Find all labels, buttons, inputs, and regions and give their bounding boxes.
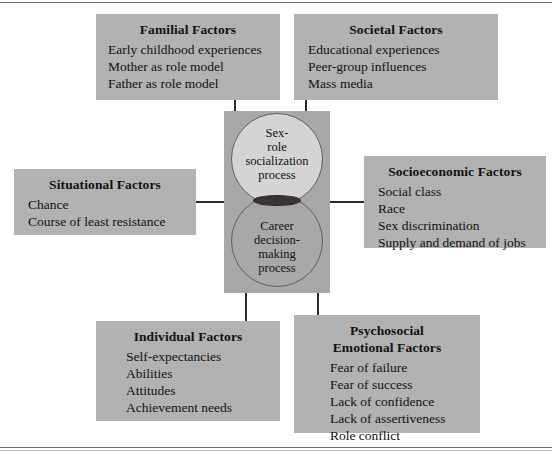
factor-box-socioeconomic[interactable]: Socioeconomic Factors Social class Race … bbox=[364, 156, 546, 248]
list-item: Self-expectancies bbox=[96, 348, 280, 365]
title-line: Individual Factors bbox=[96, 328, 280, 345]
circle-label-line: decision- bbox=[254, 233, 300, 247]
list-item: Chance bbox=[14, 196, 196, 213]
figure-canvas: Familial Factors Early childhood experie… bbox=[0, 0, 552, 459]
page-rule-bottom bbox=[0, 447, 552, 448]
factor-box-socioeconomic-title: Socioeconomic Factors bbox=[364, 163, 546, 180]
list-item: Educational experiences bbox=[294, 41, 498, 58]
factor-box-familial-title: Familial Factors bbox=[96, 21, 280, 38]
circle-career-decision-making-label: Career decision- making process bbox=[254, 219, 300, 276]
connector-center-to-individual bbox=[245, 292, 247, 322]
circle-career-decision-making[interactable]: Career decision- making process bbox=[231, 195, 323, 287]
title-line: Emotional Factors bbox=[294, 339, 480, 356]
factor-box-familial[interactable]: Familial Factors Early childhood experie… bbox=[96, 14, 280, 100]
list-item: Race bbox=[364, 200, 546, 217]
circle-label-line: Sex- bbox=[245, 126, 308, 140]
circle-label-line: socialization bbox=[245, 154, 308, 168]
circle-sex-role-socialization-label: Sex- role socialization process bbox=[245, 126, 308, 183]
list-item: Fear of failure bbox=[294, 359, 480, 376]
factor-box-situational[interactable]: Situational Factors Chance Course of lea… bbox=[14, 169, 196, 235]
circle-label-line: process bbox=[254, 261, 300, 275]
factor-box-socioeconomic-list: Social class Race Sex discrimination Sup… bbox=[364, 183, 546, 251]
list-item: Abilities bbox=[96, 365, 280, 382]
title-line: Psychosocial bbox=[294, 322, 480, 339]
factor-box-psychosocial-title: Psychosocial Emotional Factors bbox=[294, 322, 480, 356]
connector-socioeconomic-to-center bbox=[328, 201, 366, 203]
page-rule-bottom-secondary bbox=[0, 450, 552, 451]
list-item: Role conflict bbox=[294, 427, 480, 444]
center-venn-panel: Sex- role socialization process Career d… bbox=[224, 111, 330, 293]
factor-box-individual[interactable]: Individual Factors Self-expectancies Abi… bbox=[96, 321, 280, 421]
factor-box-societal[interactable]: Societal Factors Educational experiences… bbox=[294, 14, 498, 100]
list-item: Mass media bbox=[294, 75, 498, 92]
list-item: Achievement needs bbox=[96, 399, 280, 416]
list-item: Early childhood experiences bbox=[96, 41, 280, 58]
factor-box-familial-list: Early childhood experiences Mother as ro… bbox=[96, 41, 280, 92]
factor-box-situational-title: Situational Factors bbox=[14, 176, 196, 193]
list-item: Lack of confidence bbox=[294, 393, 480, 410]
list-item: Supply and demand of jobs bbox=[364, 234, 546, 251]
list-item: Sex discrimination bbox=[364, 217, 546, 234]
list-item: Fear of success bbox=[294, 376, 480, 393]
title-line: Socioeconomic Factors bbox=[364, 163, 546, 180]
circle-label-line: role bbox=[245, 140, 308, 154]
connector-situational-to-center bbox=[196, 201, 226, 203]
circle-label-line: making bbox=[254, 247, 300, 261]
list-item: Attitudes bbox=[96, 382, 280, 399]
title-line: Societal Factors bbox=[294, 21, 498, 38]
page-rule-top bbox=[0, 2, 552, 3]
factor-box-societal-list: Educational experiences Peer-group influ… bbox=[294, 41, 498, 92]
list-item: Course of least resistance bbox=[14, 213, 196, 230]
circle-sex-role-socialization[interactable]: Sex- role socialization process bbox=[231, 113, 323, 205]
list-item: Mother as role model bbox=[96, 58, 280, 75]
circle-label-line: process bbox=[245, 168, 308, 182]
factor-box-individual-title: Individual Factors bbox=[96, 328, 280, 345]
factor-box-individual-list: Self-expectancies Abilities Attitudes Ac… bbox=[96, 348, 280, 416]
factor-box-psychosocial[interactable]: Psychosocial Emotional Factors Fear of f… bbox=[294, 315, 480, 433]
list-item: Lack of assertiveness bbox=[294, 410, 480, 427]
list-item: Peer-group influences bbox=[294, 58, 498, 75]
factor-box-societal-title: Societal Factors bbox=[294, 21, 498, 38]
list-item: Social class bbox=[364, 183, 546, 200]
factor-box-psychosocial-list: Fear of failure Fear of success Lack of … bbox=[294, 359, 480, 444]
circle-label-line: Career bbox=[254, 219, 300, 233]
list-item: Father as role model bbox=[96, 75, 280, 92]
title-line: Familial Factors bbox=[96, 21, 280, 38]
connector-center-to-psychosocial bbox=[317, 292, 319, 316]
circle-overlap-lens bbox=[253, 195, 301, 206]
factor-box-situational-list: Chance Course of least resistance bbox=[14, 196, 196, 230]
title-line: Situational Factors bbox=[14, 176, 196, 193]
